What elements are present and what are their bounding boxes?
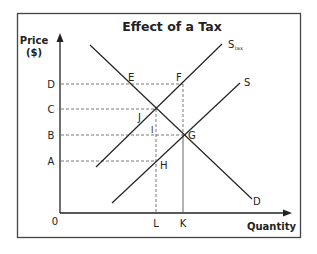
point-G: G <box>188 130 196 141</box>
quantity-label-L: L <box>153 218 159 229</box>
quantity-label-K: K <box>180 218 187 229</box>
point-F: F <box>176 72 182 83</box>
price-label-A: A <box>48 156 55 167</box>
supply-label: S <box>244 77 250 88</box>
y-axis-label: Price <box>20 35 49 46</box>
x-axis-label: Quantity <box>247 221 296 232</box>
diagram-title: Effect of a Tax <box>122 19 221 34</box>
price-label-B: B <box>48 130 55 141</box>
tax-effect-diagram: Effect of a Tax Price ($) Quantity 0 D C… <box>0 0 317 254</box>
point-I: I <box>151 126 153 135</box>
point-H: H <box>160 160 168 171</box>
price-label-C: C <box>48 104 55 115</box>
price-label-D: D <box>47 79 55 90</box>
point-E: E <box>128 72 134 83</box>
origin-label: 0 <box>52 216 58 227</box>
point-J: J <box>137 112 141 123</box>
demand-label: D <box>253 196 261 207</box>
y-axis-unit: ($) <box>26 47 42 58</box>
